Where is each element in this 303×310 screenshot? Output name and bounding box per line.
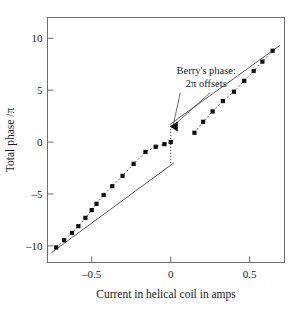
y-tick-label: –5 [31, 188, 44, 200]
y-axis-title: Total phase /π [4, 108, 17, 173]
data-point-marker [162, 142, 166, 146]
data-point-marker [54, 245, 58, 249]
y-tick-label: 5 [37, 84, 43, 96]
annotation-text-line: Berry's phase: [177, 65, 236, 76]
data-point-marker [232, 90, 236, 94]
data-point-marker [83, 216, 87, 220]
data-point-marker [143, 150, 147, 154]
data-point-marker [101, 193, 105, 197]
x-tick-label: 0.5 [243, 268, 257, 280]
data-point-marker [192, 131, 196, 135]
data-point-marker [169, 140, 173, 144]
data-point-marker [211, 109, 215, 113]
annotation-text-line: 2π offsets [186, 78, 227, 89]
x-tick-label: –0.5 [81, 268, 102, 280]
data-point-marker [94, 202, 98, 206]
figure-container: 1050–5–10 –0.500.5 Berry's phase:2π offs… [0, 0, 303, 310]
data-point-marker [70, 231, 74, 235]
data-point-marker [132, 162, 136, 166]
data-point-marker [252, 69, 256, 73]
y-tick-label: 10 [32, 32, 44, 44]
data-point-marker [154, 145, 158, 149]
data-point-marker [120, 174, 124, 178]
data-point-marker [90, 208, 94, 212]
x-axis-title: Current in helical coil in amps [96, 288, 236, 301]
data-point-marker [221, 99, 225, 103]
figure-background [0, 0, 303, 310]
data-point-marker [271, 49, 275, 53]
data-point-marker [201, 120, 205, 124]
data-point-marker [62, 238, 66, 242]
data-point-marker [76, 224, 80, 228]
y-tick-label: –10 [25, 240, 43, 252]
x-tick-label: 0 [168, 268, 174, 280]
data-point-marker [260, 60, 264, 64]
data-point-marker [110, 184, 114, 188]
data-point-marker [242, 79, 246, 83]
berry-phase-scatter-chart: 1050–5–10 –0.500.5 Berry's phase:2π offs… [0, 0, 303, 310]
y-tick-label: 0 [37, 136, 43, 148]
